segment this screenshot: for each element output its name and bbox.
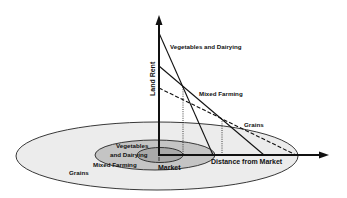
zone-label-grains: Grains (69, 169, 89, 176)
y-axis-arrow-icon (156, 15, 163, 25)
market-label: Market (158, 164, 181, 171)
curve-label-mixed-farming: Mixed Farming (199, 90, 243, 97)
zone-label-vegetables-line1: Vegetables (116, 142, 149, 149)
curve-label-grains: Grains (244, 121, 264, 128)
zone-label-vegetables-line2: and Dairying (110, 151, 148, 158)
von-thunen-diagram: Land Rent Distance from Market Vegetable… (0, 0, 347, 198)
curve-label-vegetables: Vegetables and Dairying (170, 43, 242, 50)
x-axis-arrow-icon (319, 152, 329, 159)
y-axis-label: Land Rent (149, 61, 156, 96)
zone-label-mixed-farming: Mixed Farming (93, 161, 137, 168)
x-axis-label: Distance from Market (211, 158, 283, 165)
